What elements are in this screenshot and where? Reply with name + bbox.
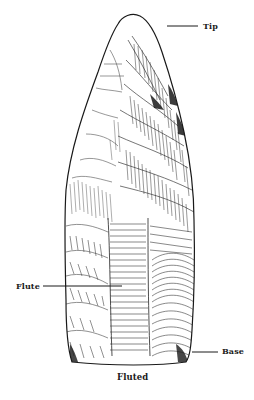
flute-label: Flute <box>16 281 40 291</box>
diagram-canvas: Tip Flute Base Fluted <box>0 0 254 400</box>
tip-label: Tip <box>203 21 218 31</box>
point-outline <box>65 14 195 365</box>
base-label: Base <box>222 346 244 356</box>
projectile-point-drawing <box>0 0 254 400</box>
figure-caption: Fluted <box>117 372 148 382</box>
